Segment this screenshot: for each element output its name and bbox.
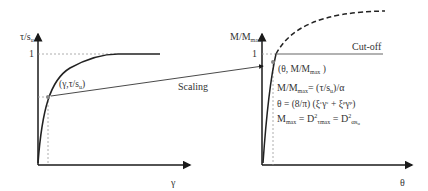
right-moment-curve: [263, 54, 276, 163]
right-y-axis-label: M/M: [230, 31, 251, 42]
left-stress-strain-curve: [38, 54, 160, 163]
diagram-canvas: τ/su 1 γ (γ,τ/su) Scaling M/Mmax 1 θ Cut…: [0, 0, 428, 191]
left-y-axis-label: τ/s: [20, 31, 31, 42]
left-point-marker: [46, 95, 50, 99]
scaling-label: Scaling: [178, 81, 208, 92]
left-point-label: (γ,τ/s: [59, 79, 79, 90]
left-x-axis-label: γ: [170, 177, 176, 188]
equation-max-moment: Mmax = D2τmax = D2αsu: [277, 113, 361, 126]
svg-text:(γ,τ/su): (γ,τ/su): [59, 79, 85, 90]
left-y-tick-1: 1: [29, 48, 34, 59]
left-plot: τ/su 1 γ (γ,τ/su): [20, 31, 190, 188]
right-point-marker: [271, 60, 275, 64]
svg-text:(θ, M/Mmax ): (θ, M/Mmax ): [278, 64, 326, 75]
svg-text:τ/su: τ/su: [20, 31, 34, 43]
right-x-axis-label: θ: [400, 177, 405, 188]
equation-moment-ratio: M/Mmax= (τ/su)/α: [277, 82, 345, 94]
svg-text:M/Mmax: M/Mmax: [230, 31, 261, 43]
cutoff-label: Cut-off: [352, 41, 382, 52]
right-plot: M/Mmax 1 θ Cut-off (θ, M/Mmax ) M/Mmax= …: [230, 11, 412, 188]
right-point-label: (θ, M/M: [278, 64, 311, 75]
right-y-tick-1: 1: [252, 48, 257, 59]
equation-rotation: θ = (8/π) (ξeγe + ξpγp): [277, 99, 355, 110]
